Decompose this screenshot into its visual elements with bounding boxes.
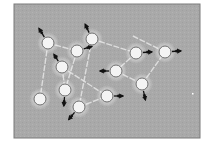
node-E bbox=[59, 84, 71, 96]
arrow-dot-icon bbox=[70, 115, 73, 118]
arrow-dot-icon bbox=[143, 94, 146, 97]
node-C bbox=[71, 45, 83, 57]
node-A bbox=[42, 37, 54, 49]
speck-mark bbox=[192, 93, 194, 95]
arrow-dot-icon bbox=[117, 95, 120, 98]
node-G bbox=[73, 101, 85, 113]
node-I bbox=[110, 65, 122, 77]
arrow-dot-icon bbox=[55, 56, 58, 59]
diagram-canvas bbox=[0, 0, 208, 147]
arrow-dot-icon bbox=[86, 27, 89, 30]
node-H bbox=[101, 90, 113, 102]
arrow-dot-icon bbox=[175, 50, 178, 53]
node-J bbox=[130, 47, 142, 59]
arrow-dot-icon bbox=[146, 51, 149, 54]
arrow-dot-icon bbox=[40, 31, 43, 34]
node-D bbox=[56, 61, 68, 73]
arrow-dot-icon bbox=[86, 46, 89, 49]
graph-svg bbox=[0, 0, 208, 147]
node-L bbox=[136, 78, 148, 90]
node-K bbox=[159, 46, 171, 58]
arrow-dot-icon bbox=[103, 70, 106, 73]
arrow-dot-icon bbox=[63, 100, 66, 103]
node-B bbox=[86, 33, 98, 45]
specks-layer bbox=[192, 93, 194, 95]
node-F bbox=[34, 93, 46, 105]
